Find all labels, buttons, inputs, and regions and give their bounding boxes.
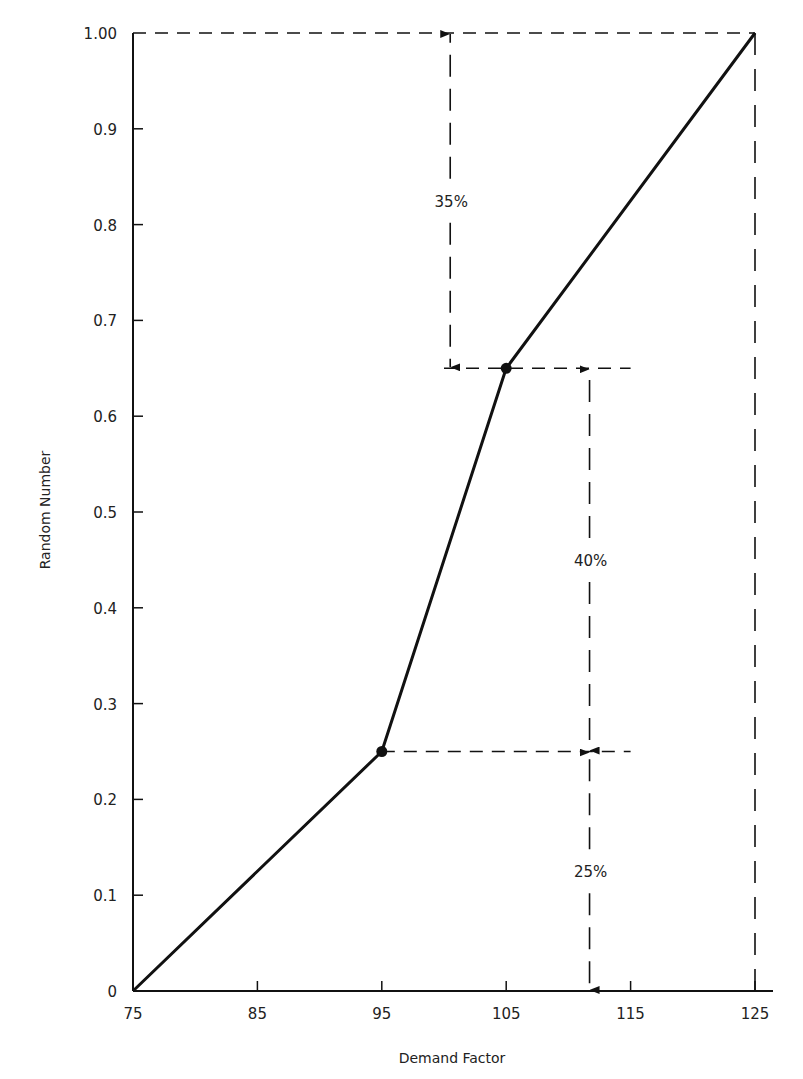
axes: 75859510511512500.10.20.30.40.50.60.70.8…: [84, 25, 773, 1023]
y-tick-label: 0.9: [93, 121, 117, 139]
cumulative-distribution-chart: 75859510511512500.10.20.30.40.50.60.70.8…: [0, 0, 803, 1079]
y-tick-label: 0.5: [93, 504, 117, 522]
data-series: [133, 33, 755, 991]
y-axis-title: Random Number: [37, 450, 53, 569]
y-tick-label: 0: [107, 983, 117, 1001]
annotation-label: 40%: [574, 552, 607, 570]
x-tick-label: 75: [123, 1005, 142, 1023]
x-axis-title: Demand Factor: [399, 1050, 506, 1066]
y-tick-label: 0.1: [93, 887, 117, 905]
y-tick-label: 0.7: [93, 312, 117, 330]
x-tick-label: 115: [616, 1005, 645, 1023]
y-tick-label: 1.00: [84, 25, 117, 43]
x-tick-label: 125: [741, 1005, 770, 1023]
x-tick-label: 95: [372, 1005, 391, 1023]
annotation-label: 25%: [574, 863, 607, 881]
x-tick-label: 105: [492, 1005, 521, 1023]
y-tick-label: 0.2: [93, 791, 117, 809]
x-tick-label: 85: [248, 1005, 267, 1023]
series-line: [133, 33, 755, 991]
data-point-marker: [376, 746, 387, 757]
y-tick-label: 0.6: [93, 408, 117, 426]
data-point-marker: [501, 363, 512, 374]
y-tick-label: 0.3: [93, 696, 117, 714]
y-tick-label: 0.8: [93, 217, 117, 235]
annotation-label: 35%: [435, 193, 468, 211]
guide-lines: [133, 33, 755, 991]
y-tick-label: 0.4: [93, 600, 117, 618]
